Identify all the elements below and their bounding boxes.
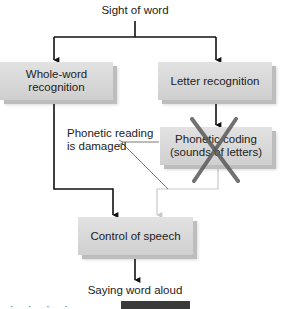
letter-recognition-label: Letter recognition [171, 75, 260, 88]
whole-word-recognition-box: Whole-word recognition [0, 62, 113, 100]
letter-recognition-box: Letter recognition [158, 62, 272, 100]
path-whole-word-to-speech [54, 102, 113, 215]
control-of-speech-box: Control of speech [78, 217, 193, 255]
annotation-line1: Phonetic reading [67, 127, 153, 140]
faded-path-phonetic-to-speech [157, 168, 218, 215]
saying-word-aloud-label: Saying word aloud [0, 284, 270, 297]
phonetic-coding-label-line2: (sounds of letters) [170, 146, 262, 159]
phonetic-coding-box: Phonetic coding (sounds of letters) [160, 127, 272, 165]
annotation-line2: is damaged [67, 140, 153, 153]
phonetic-coding-label-line1: Phonetic coding [175, 133, 257, 146]
sight-of-word-label: Sight of word [0, 4, 270, 17]
control-of-speech-label: Control of speech [90, 230, 180, 243]
diagram-canvas: Sight of word Whole-word recognition Let… [0, 0, 282, 309]
annotation-phonetic-reading: Phonetic reading is damaged [67, 127, 153, 153]
split-connector [54, 21, 216, 37]
whole-word-recognition-label: Whole-word recognition [0, 68, 113, 94]
cutoff-text-fragment: · · · · [10, 302, 74, 309]
cutoff-dark-bar [121, 301, 190, 309]
